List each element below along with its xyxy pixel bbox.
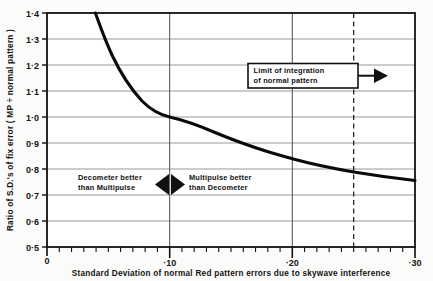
decometer-better-line2: than Multipulse	[78, 183, 135, 192]
y-axis-title: Ratio of S.D.'s of fix error ( MP ÷ norm…	[6, 29, 15, 231]
chart-svg: 1·4 1·3 1·2 1·1 1·0 0·9 0·8 0·7 0·6 0·5 …	[0, 0, 433, 281]
limit-of-integration-line2: of normal pattern	[254, 76, 318, 85]
multipulse-better-line1: Multipulse better	[189, 173, 252, 182]
ytick-label-0-9: 0·9	[26, 139, 39, 149]
plot-area-background	[47, 13, 415, 247]
xtick-label-0-20: ·20	[286, 258, 299, 268]
ytick-label-0-6: 0·6	[26, 217, 39, 227]
limit-of-integration-line1: Limit of integration	[254, 66, 325, 75]
xtick-label-0-30: ·30	[408, 258, 421, 268]
x-axis-title: Standard Deviation of normal Red pattern…	[72, 269, 391, 278]
ytick-label-0-8: 0·8	[26, 165, 39, 175]
xtick-label-0-10: ·10	[163, 258, 176, 268]
ytick-label-1-0: 1·0	[26, 113, 39, 123]
ytick-label-1-4: 1·4	[26, 9, 39, 19]
ytick-label-1-1: 1·1	[26, 87, 39, 97]
decometer-better-line1: Decometer better	[78, 173, 142, 182]
xtick-label-0: 0	[44, 256, 49, 266]
ytick-label-0-7: 0·7	[26, 191, 39, 201]
ytick-label-1-2: 1·2	[26, 61, 39, 71]
chart-figure: 1·4 1·3 1·2 1·1 1·0 0·9 0·8 0·7 0·6 0·5 …	[0, 0, 433, 281]
ytick-label-0-5: 0·5	[26, 243, 39, 253]
multipulse-better-line2: than Decometer	[189, 183, 248, 192]
ytick-label-1-3: 1·3	[26, 35, 39, 45]
